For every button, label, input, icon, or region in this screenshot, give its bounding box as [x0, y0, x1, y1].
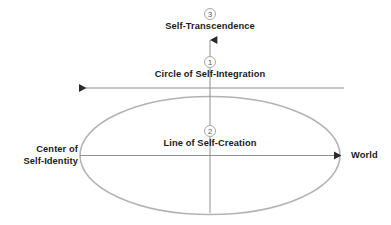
- label-center-of-self-identity-line2: Self-Identity: [23, 156, 78, 168]
- marker-2: 2: [204, 125, 216, 137]
- label-center-of-self-identity: Center of Self-Identity: [23, 144, 78, 167]
- label-self-transcendence: Self-Transcendence: [165, 21, 255, 33]
- diagram-graphics: [0, 0, 391, 225]
- label-circle-of-self-integration: Circle of Self-Integration: [155, 69, 266, 81]
- label-line-of-self-creation: Line of Self-Creation: [163, 138, 256, 150]
- label-center-of-self-identity-line1: Center of: [23, 144, 78, 156]
- marker-3: 3: [204, 8, 216, 20]
- label-world: World: [351, 150, 378, 162]
- marker-1: 1: [204, 56, 216, 68]
- diagram-canvas: 3 1 2 Self-Transcendence Circle of Self-…: [0, 0, 391, 225]
